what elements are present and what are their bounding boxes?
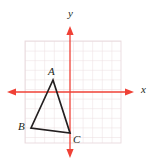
y-axis-arrow-down [66, 149, 73, 158]
vertex-label-a: A [48, 66, 55, 77]
x-axis-arrow-right [125, 88, 134, 95]
vertex-label-c: C [73, 134, 80, 145]
y-axis-arrow-up [66, 26, 73, 35]
x-axis-arrow-left [7, 88, 16, 95]
x-axis-label: x [141, 84, 146, 95]
vertex-label-b: B [18, 121, 25, 132]
y-axis-label: y [68, 8, 73, 19]
coordinate-plane-figure: y x A B C [0, 0, 157, 163]
